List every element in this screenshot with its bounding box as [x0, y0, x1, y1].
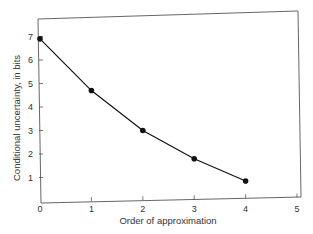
- chart: 1234567 012345 Order of approximation Co…: [0, 0, 313, 234]
- x-tick-label: 5: [294, 204, 299, 214]
- y-axis-label: Conditional uncertainty, in bits: [11, 55, 22, 181]
- x-axis-ticks: 012345: [37, 194, 299, 215]
- x-tick-label: 3: [192, 204, 197, 214]
- x-axis-label: Order of approximation: [119, 215, 216, 226]
- data-series: [37, 36, 248, 184]
- y-tick-label: 1: [28, 173, 33, 183]
- plot-frame: [38, 11, 301, 203]
- data-point: [191, 156, 197, 162]
- data-point: [140, 128, 146, 134]
- x-tick-label: 2: [140, 204, 145, 214]
- y-tick-label: 7: [28, 32, 33, 42]
- y-tick-label: 6: [28, 55, 33, 65]
- x-tick-label: 0: [37, 204, 42, 214]
- y-tick-label: 2: [28, 149, 33, 159]
- x-tick-label: 4: [243, 204, 248, 214]
- data-point: [243, 178, 249, 184]
- data-point: [89, 88, 95, 94]
- y-tick-label: 4: [28, 102, 33, 112]
- y-tick-label: 5: [28, 79, 33, 89]
- data-point: [37, 36, 43, 42]
- y-axis-ticks: 1234567: [28, 32, 43, 183]
- y-tick-label: 3: [28, 126, 33, 136]
- x-tick-label: 1: [89, 204, 94, 214]
- series-line: [40, 39, 246, 181]
